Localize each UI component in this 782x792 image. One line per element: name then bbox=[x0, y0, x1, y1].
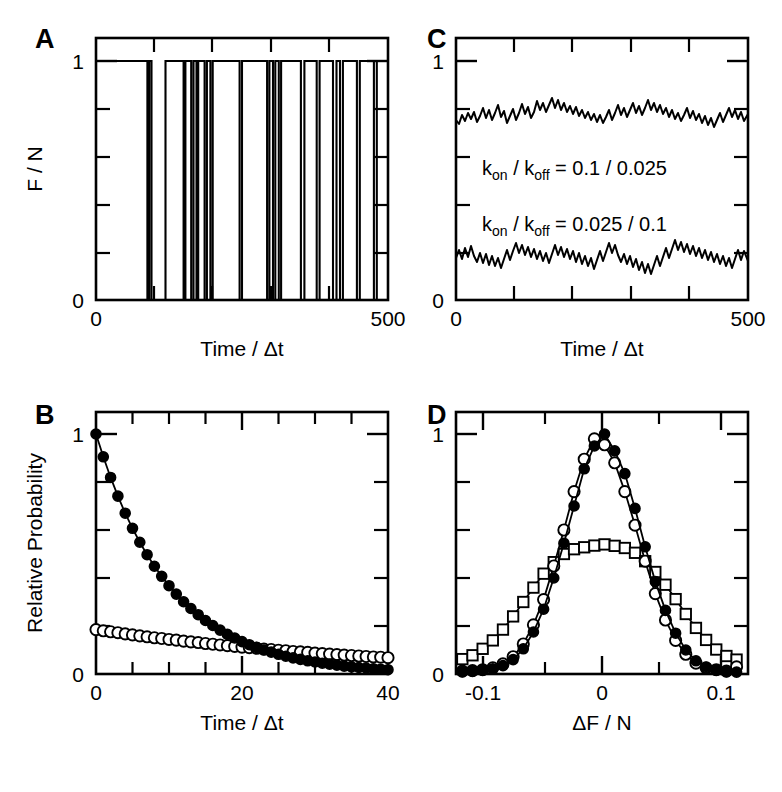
panel-b-filled-circle-marker bbox=[113, 491, 123, 501]
panel-d-open-square-marker bbox=[681, 609, 691, 619]
panel-d-filled-circle-marker bbox=[549, 573, 559, 583]
panel-a-ylabel: F / N bbox=[23, 146, 46, 192]
panel-d-open-square-marker bbox=[589, 540, 599, 550]
panel-b-filled-circle-marker bbox=[106, 472, 116, 482]
panel-d-filled-circle-marker bbox=[691, 656, 701, 666]
panel-b-ylabel: Relative Probability bbox=[23, 453, 46, 633]
panel-d-open-square-marker bbox=[660, 580, 670, 590]
panel-d-xtick-pos: 0.1 bbox=[706, 681, 735, 704]
panel-d-filled-circle-marker bbox=[559, 538, 569, 548]
panel-d-filled-circle-marker bbox=[600, 429, 610, 439]
panel-d-ytick-1: 1 bbox=[432, 423, 444, 446]
panel-d-filled-circle-marker bbox=[620, 469, 630, 479]
panel-d-filled-circle-marker bbox=[671, 628, 681, 638]
panel-c-xlabel: Time / Δt bbox=[560, 337, 643, 360]
panel-d-filled-circle-marker bbox=[711, 665, 721, 675]
panel-d-filled-circle-marker bbox=[721, 667, 731, 677]
panel-a-xtick-500: 500 bbox=[370, 307, 405, 330]
panel-c-annot-lower-sub1: on bbox=[492, 223, 508, 239]
panel-a-xlabel: Time / Δt bbox=[200, 337, 283, 360]
panel-b-filled-circle-marker bbox=[128, 523, 138, 533]
panel-d-open-square-marker bbox=[610, 541, 620, 551]
figure-container: A bbox=[0, 0, 782, 792]
panel-d-open-square-marker bbox=[528, 582, 538, 592]
panel-d-open-square-marker bbox=[599, 539, 609, 549]
panel-d-xtick-neg: -0.1 bbox=[465, 681, 501, 704]
panel-d-open-square-marker bbox=[620, 543, 630, 553]
panel-d-open-square-marker bbox=[538, 568, 548, 578]
panel-d-xtick-zero: 0 bbox=[596, 681, 608, 704]
panel-d-open-square-marker bbox=[670, 594, 680, 604]
panel-d-filled-circle-marker bbox=[640, 542, 650, 552]
panel-d-filled-circle-marker bbox=[681, 645, 691, 655]
panel-d-filled-circle-marker bbox=[650, 577, 660, 587]
panel-b-xtick-0: 0 bbox=[90, 681, 102, 704]
panel-d-filled-circle-marker bbox=[589, 441, 599, 451]
panel-d-filled-circle-marker bbox=[610, 446, 620, 456]
panel-b-open-circle-marker bbox=[382, 652, 393, 663]
panel-a-ytick-0: 0 bbox=[72, 289, 84, 312]
panel-d-filled-circle-marker bbox=[630, 503, 640, 513]
panel-c-annot-upper-suffix: = 0.1 / 0.025 bbox=[550, 157, 667, 179]
panel-b-ytick-0: 0 bbox=[72, 663, 84, 686]
panel-b-filled-circle-marker bbox=[149, 561, 159, 571]
panel-b-filled-circle-marker bbox=[383, 665, 393, 675]
panel-c-annot-lower-sub2: off bbox=[534, 223, 549, 239]
panel-c-xtick-0: 0 bbox=[450, 307, 462, 330]
panel-d-open-square-marker bbox=[498, 624, 508, 634]
panel-d-open-square-marker bbox=[457, 654, 467, 664]
panel-d-filled-circle-marker bbox=[518, 644, 528, 654]
panel-b-filled-circle-marker bbox=[98, 452, 108, 462]
panel-d-open-square-marker bbox=[691, 623, 701, 633]
panel-d-filled-circle-marker bbox=[579, 464, 589, 474]
panel-c-annot-lower-mid: / k bbox=[508, 213, 536, 235]
panel-d-filled-circle-marker bbox=[528, 627, 538, 637]
panel-b-xtick-20: 20 bbox=[230, 681, 253, 704]
panel-d-open-square-marker bbox=[508, 611, 518, 621]
panel-d-filled-circle-marker bbox=[701, 662, 711, 672]
panel-b-letter: B bbox=[35, 400, 55, 430]
panel-a-ytick-1: 1 bbox=[72, 50, 84, 73]
panel-d-xlabel: ΔF / N bbox=[572, 711, 632, 734]
panel-c-annot-upper-sub1: on bbox=[492, 167, 508, 183]
panel-d-open-square-marker bbox=[488, 635, 498, 645]
figure-svg: A bbox=[0, 0, 782, 792]
panel-a-letter: A bbox=[35, 24, 55, 54]
panel-c-xtick-500: 500 bbox=[730, 307, 765, 330]
panel-b-filled-circle-marker bbox=[164, 581, 174, 591]
panel-b-xtick-40: 40 bbox=[376, 681, 399, 704]
panel-d-open-square-marker bbox=[569, 544, 579, 554]
panel-d-open-square-marker bbox=[701, 635, 711, 645]
panel-d-filled-circle-marker bbox=[457, 667, 467, 677]
panel-d-filled-circle-marker bbox=[508, 655, 518, 665]
panel-d-filled-circle-marker bbox=[660, 605, 670, 615]
panel-c-ytick-1: 1 bbox=[432, 50, 444, 73]
panel-d-open-square-marker bbox=[477, 644, 487, 654]
panel-d-filled-circle-marker bbox=[732, 667, 742, 677]
panel-c-ytick-0: 0 bbox=[432, 289, 444, 312]
panel-c-annot-upper-mid: / k bbox=[508, 157, 536, 179]
panel-d-open-square-marker bbox=[711, 644, 721, 654]
panel-d-open-square-marker bbox=[467, 650, 477, 660]
panel-d-filled-circle-marker bbox=[539, 604, 549, 614]
panel-d-open-square-marker bbox=[518, 597, 528, 607]
panel-b-filled-circle-marker bbox=[91, 429, 101, 439]
panel-b-filled-circle-marker bbox=[135, 537, 145, 547]
panel-d-open-square-marker bbox=[579, 542, 589, 552]
panel-d-ytick-0: 0 bbox=[432, 663, 444, 686]
panel-b-ytick-1: 1 bbox=[72, 423, 84, 446]
panel-c-annot-upper-sub2: off bbox=[534, 167, 549, 183]
panel-c-annot-lower-suffix: = 0.025 / 0.1 bbox=[550, 213, 667, 235]
panel-d-filled-circle-marker bbox=[498, 661, 508, 671]
panel-d-filled-circle-marker bbox=[468, 666, 478, 676]
panel-b-filled-circle-marker bbox=[157, 571, 167, 581]
panel-d-filled-circle-marker bbox=[569, 501, 579, 511]
panel-b-xlabel: Time / Δt bbox=[200, 711, 283, 734]
panel-a-xtick-0: 0 bbox=[90, 307, 102, 330]
panel-d-open-square-marker bbox=[721, 651, 731, 661]
panel-b-filled-circle-marker bbox=[142, 550, 152, 560]
panel-b-filled-circle-marker bbox=[120, 508, 130, 518]
panel-d-filled-circle-marker bbox=[478, 665, 488, 675]
panel-d-filled-circle-marker bbox=[488, 664, 498, 674]
panel-d-open-square-marker bbox=[630, 548, 640, 558]
